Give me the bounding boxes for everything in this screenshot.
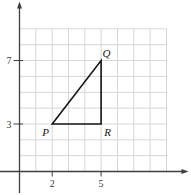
vertex-label-q: Q bbox=[103, 47, 111, 59]
y-axis-arrow-icon bbox=[17, 2, 22, 9]
y-tick-label: 3 bbox=[7, 119, 12, 130]
vertex-label-p: P bbox=[41, 126, 49, 138]
vertex-label-r: R bbox=[103, 126, 111, 138]
figure-canvas: 3725yPQR bbox=[0, 0, 191, 195]
x-axis-arrow-icon bbox=[182, 169, 189, 174]
x-tick-label: 2 bbox=[50, 178, 55, 189]
axes bbox=[0, 2, 189, 194]
x-tick-label: 5 bbox=[99, 178, 104, 189]
coordinate-plane: 3725yPQR bbox=[0, 0, 191, 195]
grid-lines bbox=[20, 29, 167, 172]
y-tick-label: 7 bbox=[7, 55, 12, 66]
